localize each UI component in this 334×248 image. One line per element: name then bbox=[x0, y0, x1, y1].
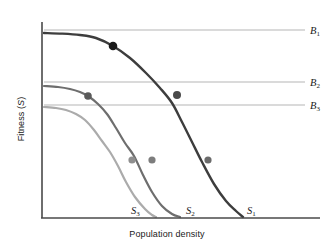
marker-m-s1-mid bbox=[173, 91, 181, 99]
x-axis-label: Population density bbox=[0, 229, 334, 239]
y-axis-label-symbol: S bbox=[16, 100, 26, 106]
curve-label-s1-sub: 1 bbox=[252, 210, 256, 218]
threshold-label-b1-sub: 1 bbox=[316, 30, 320, 38]
marker-m-s2-lower bbox=[148, 156, 155, 163]
y-axis-label-suffix: ) bbox=[16, 97, 26, 100]
chart-figure: Population density Fitness (S) B1 B2 B3 … bbox=[0, 0, 334, 248]
threshold-label-b1: B1 bbox=[310, 25, 320, 36]
curve-label-s1: S1 bbox=[247, 205, 256, 216]
y-axis-label-prefix: Fitness ( bbox=[16, 106, 26, 141]
threshold-label-b3-sub: 3 bbox=[316, 105, 320, 113]
curve-label-s2-sub: 2 bbox=[191, 210, 195, 218]
marker-m-s1-upper bbox=[109, 42, 118, 51]
fitness-curves-group bbox=[44, 33, 243, 217]
y-axis-label-wrapper: Fitness (S) bbox=[16, 49, 30, 189]
marker-m-s2-upper bbox=[84, 92, 92, 100]
chart-plot-area bbox=[0, 0, 334, 248]
curve-label-s3: S3 bbox=[131, 205, 140, 216]
curve-label-s2: S2 bbox=[186, 205, 195, 216]
curve-s1 bbox=[44, 33, 243, 217]
marker-m-s1-lower bbox=[204, 156, 211, 163]
threshold-label-b2-sub: 2 bbox=[316, 82, 320, 90]
marker-m-s3-lower bbox=[128, 156, 135, 163]
threshold-label-b2: B2 bbox=[310, 77, 320, 88]
curve-s2 bbox=[44, 86, 180, 217]
y-axis-label: Fitness (S) bbox=[16, 49, 26, 189]
curve-s3 bbox=[44, 107, 156, 217]
threshold-label-b3: B3 bbox=[310, 100, 320, 111]
curve-label-s3-sub: 3 bbox=[136, 210, 140, 218]
